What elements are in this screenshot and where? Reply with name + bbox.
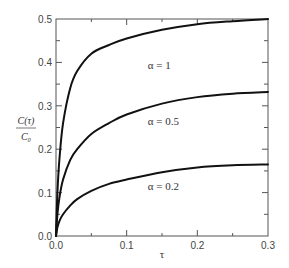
y-tick-label: 0.2 (38, 144, 52, 155)
series-line-1 (56, 92, 268, 236)
series-annotation-2: α = 0.2 (148, 180, 179, 192)
y-axis-label: C(τ) C₀ (16, 115, 36, 142)
x-tick-label: 0.1 (120, 240, 134, 251)
y-tick-label: 0.4 (38, 57, 52, 68)
series-line-0 (56, 19, 268, 236)
y-tick-label: 0.0 (38, 231, 52, 242)
y-axis-label-numerator: C(τ) (18, 115, 36, 127)
y-tick-label: 0.3 (38, 101, 52, 112)
series-annotation-1: α = 0.5 (148, 115, 180, 127)
x-tick-label: 0.2 (190, 240, 204, 251)
x-axis-label: τ (160, 248, 165, 260)
series-line-2 (56, 164, 268, 236)
x-tick-label: 0.3 (261, 240, 275, 251)
axis-ticks (56, 19, 268, 236)
y-axis-label-denominator: C₀ (21, 131, 32, 142)
chart: 0.00.10.20.30.00.10.20.30.40.5 α = 1α = … (0, 0, 289, 268)
y-tick-label: 0.1 (38, 188, 52, 199)
axis-tick-labels: 0.00.10.20.30.00.10.20.30.40.5 (38, 14, 275, 251)
plot-frame (56, 19, 268, 236)
y-tick-label: 0.5 (38, 14, 52, 25)
series-lines (56, 19, 268, 236)
series-annotation-0: α = 1 (148, 59, 171, 71)
